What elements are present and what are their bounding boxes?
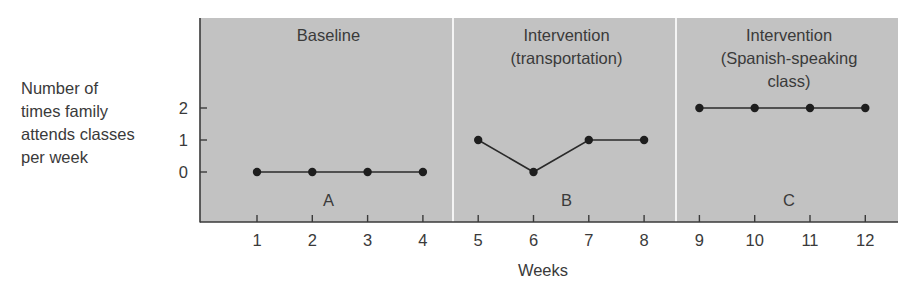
x-tick-label: 4	[418, 231, 427, 249]
x-tick-label: 5	[474, 231, 483, 249]
phase-letter: C	[783, 191, 795, 209]
data-point-marker	[529, 168, 537, 176]
y-axis-label: Number of times family attends classes p…	[21, 77, 135, 169]
x-tick-label: 12	[856, 231, 874, 249]
data-point-marker	[585, 136, 593, 144]
data-point-marker	[308, 168, 316, 176]
data-point-marker	[419, 168, 427, 176]
phase-title: Intervention	[523, 26, 609, 44]
x-tick-label: 9	[695, 231, 704, 249]
phase-letter: B	[561, 191, 572, 209]
data-point-marker	[861, 104, 869, 112]
phase-title: (Spanish-speaking	[721, 49, 858, 67]
data-point-marker	[751, 104, 759, 112]
data-point-marker	[695, 104, 703, 112]
x-tick-label: 2	[308, 231, 317, 249]
data-point-marker	[363, 168, 371, 176]
phase-letter: A	[323, 191, 334, 209]
data-point-marker	[474, 136, 482, 144]
single-subject-design-chart: Number of times family attends classes p…	[0, 0, 916, 291]
phase-title: (transportation)	[511, 49, 623, 67]
x-tick-label: 11	[801, 231, 818, 249]
data-point-marker	[253, 168, 261, 176]
x-tick-label: 10	[746, 231, 764, 249]
x-tick-label: 8	[640, 231, 649, 249]
x-tick-label: 3	[363, 231, 372, 249]
y-axis-label-line: times family	[21, 100, 135, 123]
phase-title: Intervention	[746, 26, 832, 44]
data-point-marker	[806, 104, 814, 112]
x-tick-label: 6	[529, 231, 538, 249]
x-axis-label: Weeks	[518, 261, 568, 279]
y-axis-label-line: attends classes	[21, 123, 135, 146]
y-tick-label: 2	[179, 99, 188, 117]
y-tick-label: 0	[179, 163, 188, 181]
y-tick-label: 1	[179, 131, 188, 149]
x-tick-label: 1	[252, 231, 261, 249]
x-tick-label: 7	[584, 231, 593, 249]
plot-area: BaselineAIntervention(transportation)BIn…	[0, 0, 916, 291]
data-point-marker	[640, 136, 648, 144]
phase-title: Baseline	[297, 26, 360, 44]
y-axis-label-line: Number of	[21, 77, 135, 100]
y-axis-label-line: per week	[21, 146, 135, 169]
phase-title: class)	[767, 72, 810, 90]
